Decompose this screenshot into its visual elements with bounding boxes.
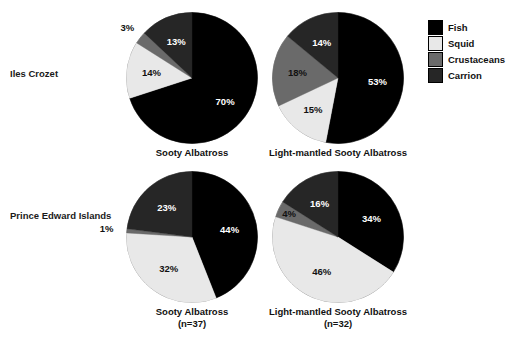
legend-item-crustaceans: Crustaceans — [428, 51, 505, 67]
legend-swatch-carrion — [428, 68, 443, 83]
legend-swatch-squid — [428, 36, 443, 51]
pie-slice-carrion — [127, 172, 192, 238]
pie-body: 53%15%18%14% — [272, 12, 404, 144]
legend-swatch-crustaceans — [428, 52, 443, 67]
legend-label-carrion: Carrion — [448, 70, 482, 81]
legend-label-squid: Squid — [448, 38, 474, 49]
legend-item-carrion: Carrion — [428, 67, 505, 83]
legend-item-squid: Squid — [428, 35, 505, 51]
pie-caption-species: Light-mantled Sooty Albatross — [269, 306, 407, 317]
pie-caption-2: Light-mantled Sooty Albatross — [269, 147, 407, 159]
legend-label-crustaceans: Crustaceans — [448, 54, 505, 65]
pie-caption-3: Sooty Albatross(n=37) — [156, 306, 229, 330]
row-label-iles-crozet: Iles Crozet — [10, 68, 115, 79]
pie-caption-sample-size: (n=32) — [269, 318, 407, 330]
pie-caption-1: Sooty Albatross — [156, 147, 229, 159]
pie-chart-1: 70%14%3%13% — [126, 12, 258, 144]
legend-item-fish: Fish — [428, 19, 505, 35]
pie-caption-species: Light-mantled Sooty Albatross — [269, 147, 407, 158]
pie-chart-2: 53%15%18%14% — [272, 12, 404, 144]
pie-body: 70%14%3%13% — [126, 12, 258, 144]
diet-composition-pie-figure: Iles Crozet Prince Edward Islands 70%14%… — [0, 0, 515, 348]
pie-body: 34%46%4%16% — [272, 171, 404, 303]
pie-body: 44%32%1%23% — [126, 171, 258, 303]
legend-swatch-fish — [428, 20, 443, 35]
row-label-prince-edward-islands: Prince Edward Islands — [10, 210, 115, 221]
pie-caption-species: Sooty Albatross — [156, 147, 229, 158]
pie-caption-species: Sooty Albatross — [156, 306, 229, 317]
legend-label-fish: Fish — [448, 22, 468, 33]
slice-label-crustaceans: 1% — [100, 224, 114, 234]
pie-caption-sample-size: (n=37) — [156, 318, 229, 330]
pie-chart-3: 44%32%1%23% — [126, 171, 258, 303]
pie-caption-4: Light-mantled Sooty Albatross(n=32) — [269, 306, 407, 330]
legend: Fish Squid Crustaceans Carrion — [428, 19, 505, 83]
pie-chart-4: 34%46%4%16% — [272, 171, 404, 303]
